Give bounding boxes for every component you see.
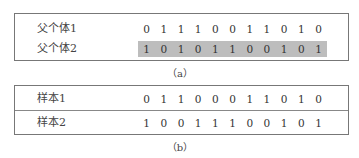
bit: 1 xyxy=(172,91,189,107)
bit: 1 xyxy=(190,21,207,37)
bit: 0 xyxy=(310,21,327,37)
bit: 1 xyxy=(207,41,224,57)
sample-2-bits: 1 0 0 1 1 1 0 0 1 0 1 xyxy=(138,115,327,131)
bit: 1 xyxy=(241,91,258,107)
bit: 0 xyxy=(310,91,327,107)
bit: 1 xyxy=(258,21,275,37)
parent-2-label: 父个体2 xyxy=(37,41,77,57)
bit: 1 xyxy=(138,41,155,57)
bit: 0 xyxy=(276,91,293,107)
bit: 1 xyxy=(293,21,310,37)
bit: 0 xyxy=(155,115,172,131)
bit: 0 xyxy=(155,41,172,57)
bit: 0 xyxy=(241,41,258,57)
bit: 0 xyxy=(241,115,258,131)
bit: 1 xyxy=(207,115,224,131)
bit: 0 xyxy=(224,91,241,107)
figure-a-table: 父个体1 0 1 1 1 0 0 1 1 0 1 0 父个体2 1 0 1 0 … xyxy=(14,13,349,61)
bit: 0 xyxy=(172,115,189,131)
caption-a: （a） xyxy=(160,65,200,80)
bit: 1 xyxy=(310,41,327,57)
bit: 1 xyxy=(224,41,241,57)
bit: 0 xyxy=(258,115,275,131)
bit: 1 xyxy=(258,91,275,107)
parent-1-row: 父个体1 0 1 1 1 0 0 1 1 0 1 0 xyxy=(15,21,348,37)
bit: 0 xyxy=(258,41,275,57)
bit: 0 xyxy=(224,21,241,37)
bit: 1 xyxy=(155,21,172,37)
bit: 1 xyxy=(190,115,207,131)
bit: 0 xyxy=(138,91,155,107)
bit: 0 xyxy=(276,21,293,37)
bit: 1 xyxy=(293,91,310,107)
parent-1-bits: 0 1 1 1 0 0 1 1 0 1 0 xyxy=(138,21,327,37)
sample-2-row: 样本2 1 0 0 1 1 1 0 0 1 0 1 xyxy=(15,115,348,131)
bit: 1 xyxy=(155,91,172,107)
row-divider xyxy=(15,110,348,111)
bit: 1 xyxy=(138,115,155,131)
parent-2-bits-shaded: 1 0 1 0 1 1 0 0 1 0 1 xyxy=(138,41,327,57)
bit: 0 xyxy=(207,91,224,107)
bit: 1 xyxy=(310,115,327,131)
bit: 0 xyxy=(190,91,207,107)
bit: 0 xyxy=(207,21,224,37)
parent-1-label: 父个体1 xyxy=(37,21,77,37)
sample-1-bits: 0 1 1 0 0 0 1 1 0 1 0 xyxy=(138,91,327,107)
parent-2-row: 父个体2 1 0 1 0 1 1 0 0 1 0 1 xyxy=(15,41,348,57)
bit: 0 xyxy=(293,41,310,57)
bit: 1 xyxy=(241,21,258,37)
bit: 1 xyxy=(172,21,189,37)
sample-2-label: 样本2 xyxy=(37,115,66,131)
bit: 0 xyxy=(293,115,310,131)
bit: 1 xyxy=(172,41,189,57)
figure-b-table: 样本1 0 1 1 0 0 0 1 1 0 1 0 样本2 1 0 0 1 1 … xyxy=(14,85,349,135)
bit: 1 xyxy=(276,41,293,57)
caption-b: （b） xyxy=(160,139,200,154)
bit: 0 xyxy=(190,41,207,57)
bit: 0 xyxy=(138,21,155,37)
sample-1-row: 样本1 0 1 1 0 0 0 1 1 0 1 0 xyxy=(15,91,348,107)
bit: 1 xyxy=(276,115,293,131)
bit: 1 xyxy=(224,115,241,131)
sample-1-label: 样本1 xyxy=(37,91,66,107)
